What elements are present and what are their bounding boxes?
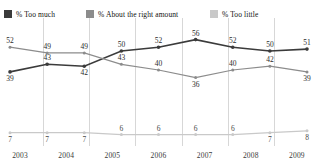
data-label-right-amount: 52 [0, 36, 22, 45]
data-label-right-amount: 49 [72, 42, 96, 51]
data-label-too-little: 6 [109, 124, 133, 133]
data-point [120, 133, 123, 136]
data-point [194, 38, 198, 42]
legend-swatch-too-little-icon [210, 10, 218, 18]
x-axis-tick-2004: 2004 [46, 151, 86, 160]
data-point [157, 45, 161, 49]
data-label-too-much: 50 [258, 40, 282, 49]
data-label-too-little: 7 [0, 135, 22, 144]
data-label-right-amount: 43 [109, 53, 133, 62]
chart-container: % Too much % About the right amount % To… [0, 0, 315, 168]
data-label-too-little: 7 [72, 135, 96, 144]
data-label-too-much: 51 [295, 38, 315, 47]
data-label-too-much: 39 [0, 74, 22, 83]
data-point [231, 133, 234, 136]
data-label-too-little: 7 [258, 135, 282, 144]
data-point [268, 65, 271, 68]
data-label-too-little: 7 [35, 135, 59, 144]
legend-swatch-right-amount-icon [86, 10, 94, 18]
legend-swatch-too-much-icon [4, 10, 12, 18]
data-label-too-much: 56 [184, 29, 208, 38]
data-point [45, 63, 49, 67]
data-point [157, 69, 160, 72]
data-point [120, 49, 124, 53]
x-axis-tick-2009: 2009 [277, 151, 315, 160]
data-point [231, 45, 235, 49]
x-axis-tick-2008: 2008 [231, 151, 271, 160]
chart-legend: % Too much % About the right amount % To… [0, 0, 315, 18]
data-label-right-amount: 42 [258, 55, 282, 64]
data-label-too-little: 6 [221, 124, 245, 133]
data-label-too-much: 52 [221, 36, 245, 45]
data-label-right-amount: 40 [147, 59, 171, 68]
data-label-too-much: 42 [72, 68, 96, 77]
data-point [120, 63, 123, 66]
data-label-too-little: 8 [295, 133, 315, 142]
data-point [194, 133, 197, 136]
data-label-right-amount: 40 [221, 59, 245, 68]
data-point [157, 133, 160, 136]
data-label-too-much: 50 [109, 40, 133, 49]
data-label-right-amount: 36 [184, 80, 208, 89]
x-axis-tick-2005: 2005 [92, 151, 132, 160]
data-label-too-much: 43 [35, 53, 59, 62]
x-axis: 2003200420052006200720082009 [0, 146, 315, 168]
data-point [83, 51, 86, 54]
data-point [231, 69, 234, 72]
data-label-too-little: 6 [147, 124, 171, 133]
data-point [268, 49, 272, 53]
data-label-right-amount: 49 [35, 42, 59, 51]
x-axis-tick-2003: 2003 [0, 151, 40, 160]
data-label-too-much: 52 [147, 36, 171, 45]
x-axis-tick-2007: 2007 [185, 151, 225, 160]
data-label-too-little: 6 [184, 124, 208, 133]
data-point [305, 47, 309, 51]
x-axis-tick-2006: 2006 [139, 151, 179, 160]
data-point [9, 46, 12, 49]
data-label-right-amount: 39 [295, 74, 315, 83]
